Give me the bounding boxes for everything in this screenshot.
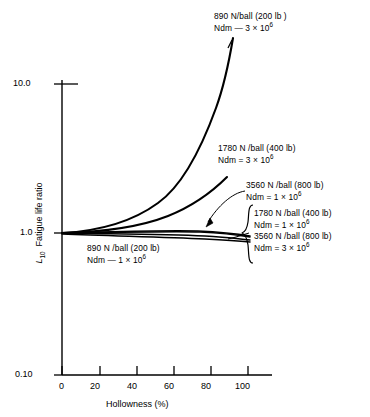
annotation-3560-1e6-line2: Ndm = 1 × 106 (246, 192, 324, 204)
annotation-3560-1e6-line1: 3560 N /ball (800 lb) (246, 180, 324, 192)
annotation-890-3e6-line1: 890 N/ball (200 lb ) (214, 11, 287, 23)
annotation-3560-1e6-ndm: Ndm = 1 × 10 (246, 192, 298, 202)
annotation-3560-3e6-exp: 6 (306, 241, 310, 248)
x-tick-label-0: 0 (59, 381, 64, 391)
annotation-890-1e6-dash: — (107, 255, 115, 265)
annotation-1780-1e6: 1780 N /ball (400 lb) Ndm = 1 × 106 (254, 208, 332, 231)
annotation-3560-1e6-exp: 6 (298, 190, 302, 197)
y-axis-title-prefix: L (34, 259, 44, 264)
x-tick-label-60: 60 (164, 381, 174, 391)
x-tick-label-80: 80 (201, 381, 211, 391)
annotation-1780-3e6-ndm: Ndm = 3 × 10 (218, 155, 270, 165)
annotation-1780-1e6-line2: Ndm = 1 × 106 (254, 220, 332, 232)
annotation-3560-3e6-line2: Ndm = 3 × 106 (254, 243, 332, 255)
annotation-890-1e6-line1: 890 N /ball (200 lb) (87, 243, 160, 255)
leader-arrow-3560-1e6 (208, 191, 245, 222)
y-axis-title: L10 Fatigue life ratio (34, 148, 44, 298)
y-tick-label-1: 1.0 (20, 227, 33, 237)
y-axis-title-spacer (34, 247, 44, 252)
x-tick-label-100: 100 (235, 381, 250, 391)
annotation-1780-3e6-line2: Ndm = 3 × 106 (218, 155, 296, 167)
figure-root: 10.0 1.0 0.10 0 20 40 60 80 100 Hollowne… (0, 0, 370, 417)
annotation-3560-3e6: 3560 N /ball (800 lb) Ndm = 3 × 106 (254, 231, 332, 254)
x-tick-label-40: 40 (127, 381, 137, 391)
x-axis-title: Hollowness (%) (106, 399, 169, 409)
curve-890-3e6 (62, 38, 233, 233)
annotation-1780-1e6-exp: 6 (306, 218, 310, 225)
y-axis-title-main: Fatigue life ratio (34, 182, 44, 246)
leader-arrowhead-3560-1e6 (206, 218, 213, 227)
annotation-3560-1e6: 3560 N /ball (800 lb) Ndm = 1 × 106 (246, 180, 324, 203)
y-axis-title-subscript: 10 (39, 252, 46, 259)
annotation-3560-3e6-ndm: Ndm = 3 × 10 (254, 243, 306, 253)
annotation-1780-3e6: 1780 N /ball (400 lb) Ndm = 3 × 106 (218, 143, 296, 166)
annotation-890-3e6-dash: — (234, 23, 242, 33)
annotation-890-1e6-ndm: Ndm (87, 255, 107, 265)
annotation-1780-3e6-exp: 6 (270, 153, 274, 160)
y-tick-label-10: 10.0 (13, 78, 31, 88)
x-tick-label-20: 20 (90, 381, 100, 391)
annotation-1780-3e6-line1: 1780 N /ball (400 lb) (218, 143, 296, 155)
annotation-890-1e6-line2: Ndm — 1 × 106 (87, 255, 160, 267)
annotation-890-1e6-exp: 6 (142, 253, 146, 260)
annotation-3560-3e6-line1: 3560 N /ball (800 lb) (254, 231, 332, 243)
grouping-brace (242, 205, 253, 263)
annotation-890-3e6-mid: 3 × 10 (243, 23, 270, 33)
annotation-890-3e6-line2: Ndm — 3 × 106 (214, 23, 287, 35)
annotation-1780-1e6-ndm: Ndm = 1 × 10 (254, 220, 306, 230)
annotation-1780-1e6-line1: 1780 N /ball (400 lb) (254, 208, 332, 220)
annotation-890-3e6: 890 N/ball (200 lb ) Ndm — 3 × 106 (214, 11, 287, 34)
y-tick-label-0.10: 0.10 (15, 369, 33, 379)
annotation-890-3e6-exp: 6 (269, 21, 273, 28)
annotation-890-3e6-ndm: Ndm (214, 23, 234, 33)
curve-1780-3e6 (62, 177, 227, 233)
annotation-890-1e6-mid: 1 × 10 (116, 255, 143, 265)
annotation-890-1e6: 890 N /ball (200 lb) Ndm — 1 × 106 (87, 243, 160, 266)
